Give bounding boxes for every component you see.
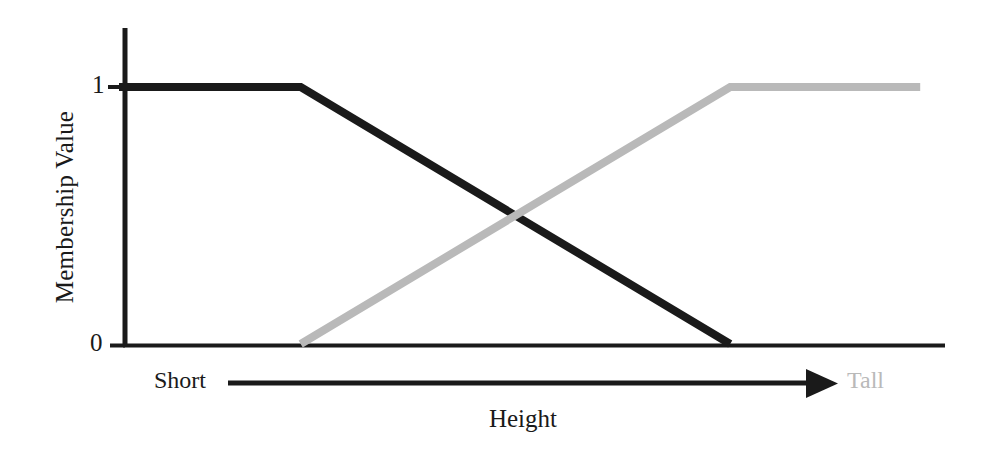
y-axis-tick-label-zero: 0 [90,330,103,355]
series-line-short [119,87,730,344]
annotation-label-tall: Tall [847,368,884,392]
x-axis-title: Height [443,406,603,431]
fuzzy-membership-figure: Membership Value Height 1 0 Short Tall [0,0,993,465]
chart-plot-area [0,0,993,465]
axis-direction-arrow-head [806,369,838,398]
series-line-tall [301,87,921,344]
annotation-label-short: Short [154,368,206,392]
y-axis-title: Membership Value [52,87,82,327]
y-axis-tick-label-one: 1 [92,72,105,97]
